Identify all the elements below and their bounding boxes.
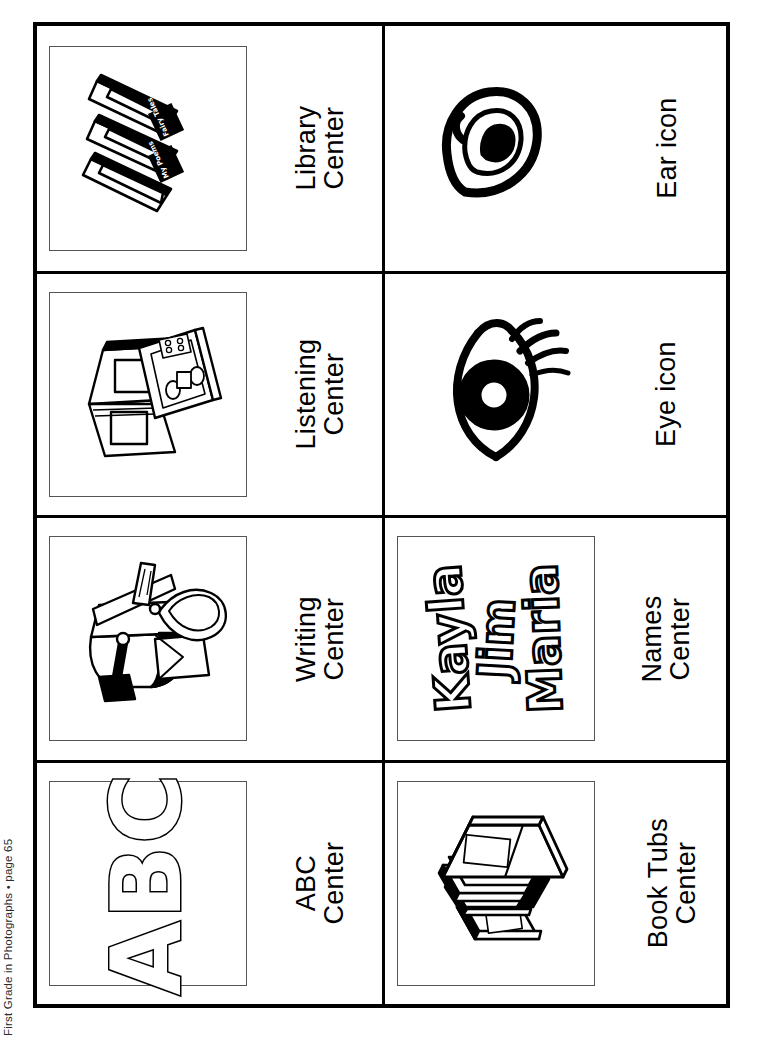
art-slot (37, 518, 259, 760)
caption-line-2: Center (672, 818, 700, 948)
caption-slot: Eye icon (607, 274, 727, 516)
art-frame: ABC (49, 781, 247, 986)
mailbox-envelope-scissors-icon (66, 554, 231, 724)
caption-slot: Ear icon (607, 26, 727, 271)
card-caption: Names Center (638, 595, 694, 682)
caption-line-1: Library (292, 106, 320, 191)
card-ear-icon[interactable]: Ear icon (382, 26, 727, 271)
card-book-tubs-center[interactable]: Book Tubs Center (382, 760, 727, 1005)
art-slot (37, 274, 259, 516)
art-frame (397, 46, 595, 251)
art-frame: My Poems Fairy Tales (49, 46, 247, 251)
caption-slot: Book Tubs Center (607, 763, 727, 1005)
ear-icon (416, 73, 576, 223)
card-names-center[interactable]: Kayla Jim Maria Names Center (382, 515, 727, 760)
card-caption: Book Tubs Center (644, 818, 700, 948)
card-caption: Library Center (292, 106, 348, 191)
caption-line-1: Writing (292, 596, 320, 682)
page-footer-note: First Grade in Photographs • page 65 (2, 816, 20, 1036)
card-caption: Eye icon (652, 341, 680, 447)
eye-icon (411, 314, 581, 474)
caption-line-1: Listening (292, 339, 320, 450)
caption-line-1: Names (638, 595, 666, 682)
art-slot (385, 26, 607, 271)
art-slot: ABC (37, 763, 259, 1005)
caption-slot: Library Center (259, 26, 382, 271)
stacked-books-icon: My Poems Fairy Tales (73, 61, 223, 236)
caption-line-1: Book Tubs (644, 818, 672, 948)
abc-letters-text: ABC (91, 771, 203, 995)
card-abc-center[interactable]: ABC ABC Center (37, 760, 382, 1005)
art-frame (49, 536, 247, 741)
book-tub-icon (413, 801, 578, 966)
caption-slot: Listening Center (259, 274, 382, 516)
card-caption: ABC Center (292, 842, 348, 925)
card-eye-icon[interactable]: Eye icon (382, 271, 727, 516)
caption-slot: Names Center (607, 518, 727, 760)
art-frame (49, 292, 247, 497)
abc-letters-icon: ABC (101, 771, 194, 995)
art-slot: My Poems Fairy Tales (37, 26, 259, 271)
student-name-3: Maria (518, 563, 569, 714)
card-library-center[interactable]: My Poems Fairy Tales Library Center (37, 26, 382, 271)
caption-line-1: Ear icon (652, 98, 680, 199)
art-frame (397, 292, 595, 497)
card-caption: Writing Center (292, 596, 348, 682)
art-slot (385, 763, 607, 1005)
caption-line-2: Center (320, 339, 348, 450)
caption-slot: Writing Center (259, 518, 382, 760)
art-slot (385, 274, 607, 516)
caption-line-2: Center (320, 596, 348, 682)
art-slot: Kayla Jim Maria (385, 518, 607, 760)
art-frame: Kayla Jim Maria (397, 536, 595, 741)
caption-line-2: Center (320, 842, 348, 925)
card-caption: Listening Center (292, 339, 348, 450)
card-sheet: My Poems Fairy Tales Library Center (33, 22, 730, 1008)
caption-slot: ABC Center (259, 763, 382, 1005)
caption-line-1: Eye icon (652, 341, 680, 447)
caption-line-1: ABC (292, 842, 320, 925)
caption-line-2: Center (320, 106, 348, 191)
student-names-icon: Kayla Jim Maria (425, 564, 566, 714)
art-frame (397, 781, 595, 986)
book-and-cassette-player-icon (68, 309, 228, 479)
card-listening-center[interactable]: Listening Center (37, 271, 382, 516)
card-writing-center[interactable]: Writing Center (37, 515, 382, 760)
card-caption: Ear icon (652, 98, 680, 199)
caption-line-2: Center (666, 595, 694, 682)
